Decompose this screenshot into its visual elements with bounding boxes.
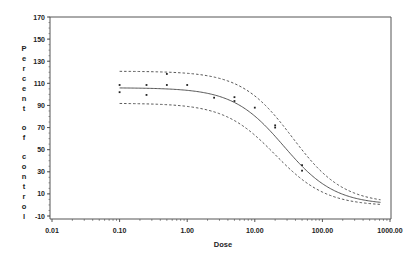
y-tick-label: 110: [34, 80, 45, 87]
svg-text:f: f: [23, 133, 26, 142]
data-point: [301, 164, 303, 166]
svg-text:P: P: [21, 44, 26, 53]
data-point: [186, 84, 188, 86]
fitted-curve: [120, 88, 381, 202]
svg-text:t: t: [23, 104, 26, 113]
y-tick-label: 150: [33, 36, 45, 43]
svg-text:r: r: [23, 64, 26, 73]
y-tick-label: 10: [37, 190, 45, 197]
data-point: [146, 94, 148, 96]
y-tick-label: 130: [33, 58, 45, 65]
svg-text:e: e: [22, 54, 26, 63]
y-tick-label: 70: [37, 124, 45, 131]
data-point: [166, 84, 168, 86]
svg-text:o: o: [22, 123, 27, 132]
plot-frame: [50, 17, 391, 219]
confidence-band: [120, 103, 381, 204]
y-tick-label: 30: [37, 168, 45, 175]
data-point: [146, 84, 148, 86]
svg-text:n: n: [22, 172, 27, 181]
data-points: [119, 73, 303, 172]
data-point: [274, 127, 276, 129]
svg-text:n: n: [22, 94, 27, 103]
x-tick-label: 100.00: [312, 227, 334, 234]
y-axis: 1701501301109070503010-10: [33, 14, 50, 220]
y-axis-title: Percentofcontrol: [21, 44, 26, 221]
svg-text:e: e: [22, 84, 26, 93]
data-point: [234, 96, 236, 98]
x-tick-label: 0.01: [45, 227, 59, 234]
data-point: [213, 97, 215, 99]
x-axis-title: Dose: [214, 240, 232, 249]
y-tick-label: -10: [35, 213, 45, 220]
svg-text:o: o: [22, 202, 27, 211]
data-point: [301, 170, 303, 172]
y-tick-label: 170: [33, 14, 45, 21]
curves: [120, 71, 381, 204]
x-tick-label: 0.10: [113, 227, 127, 234]
x-tick-label: 1.00: [180, 227, 194, 234]
svg-text:t: t: [23, 182, 26, 191]
data-point: [254, 107, 256, 109]
svg-text:l: l: [23, 212, 25, 221]
x-tick-label: 1000.00: [377, 227, 402, 234]
data-point: [234, 100, 236, 102]
svg-text:c: c: [22, 74, 26, 83]
data-point: [119, 91, 121, 93]
data-point: [274, 124, 276, 126]
svg-text:o: o: [22, 162, 27, 171]
x-axis: 0.010.101.0010.00100.001000.00: [45, 219, 403, 234]
y-tick-label: 50: [37, 146, 45, 153]
svg-text:r: r: [23, 192, 26, 201]
data-point: [119, 84, 121, 86]
dose-response-chart: 1701501301109070503010-10 0.010.101.0010…: [0, 0, 414, 259]
y-tick-label: 90: [37, 102, 45, 109]
confidence-band: [120, 71, 381, 199]
svg-text:c: c: [22, 152, 26, 161]
x-tick-label: 10.00: [246, 227, 264, 234]
data-point: [166, 73, 168, 75]
